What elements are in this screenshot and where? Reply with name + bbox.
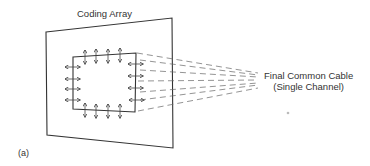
stray-dot bbox=[287, 112, 290, 115]
dashed-signal-lines bbox=[137, 53, 258, 111]
cable-label-line2: (Single Channel) bbox=[264, 81, 353, 92]
cable-label: Final Common Cable (Single Channel) bbox=[264, 70, 353, 92]
outer-panel bbox=[46, 18, 173, 148]
inner-rectangle bbox=[73, 53, 136, 112]
cable-label-line1: Final Common Cable bbox=[264, 70, 353, 81]
coding-array-title: Coding Array bbox=[77, 8, 132, 19]
panel-label: (a) bbox=[18, 148, 29, 159]
